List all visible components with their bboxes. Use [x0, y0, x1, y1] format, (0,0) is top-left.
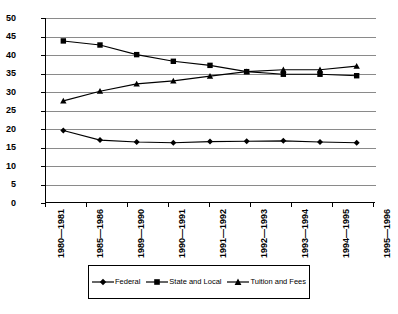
- legend-item-federal: Federal: [92, 277, 140, 287]
- legend-marker-diamond-icon: [92, 277, 114, 287]
- x-axis-tick-label: 1992—1993: [260, 209, 269, 258]
- legend: Federal State and Local Tuition and Fees: [88, 265, 310, 299]
- line-chart: 50 45 40 35 30 25 20 15 10 5 0 1980—198: [0, 0, 398, 314]
- y-axis-tick-label: 25: [0, 106, 16, 115]
- x-axis-tick-label: 1991—1992: [219, 209, 228, 258]
- data-point: [97, 137, 103, 143]
- y-axis-tick-label: 45: [0, 32, 16, 41]
- y-axis-tick-label: 10: [0, 162, 16, 171]
- x-axis-tick-label: 1989—1990: [137, 209, 146, 258]
- data-point: [317, 139, 323, 145]
- data-point: [207, 63, 212, 68]
- x-axis-tick-label: 1980—1981: [57, 209, 66, 258]
- x-axis-tick-label: 1985—1986: [96, 209, 105, 258]
- legend-marker-square-icon: [146, 277, 168, 287]
- data-point: [134, 139, 140, 145]
- data-point: [171, 59, 176, 64]
- data-point: [354, 73, 359, 78]
- y-axis-tick-label: 20: [0, 125, 16, 134]
- x-axis-tick: [127, 203, 128, 207]
- data-point: [207, 139, 213, 145]
- x-axis-tick-label: 1993—1994: [301, 209, 310, 258]
- data-point: [60, 127, 66, 133]
- legend-item-tuition-and-fees: Tuition and Fees: [227, 277, 306, 287]
- x-axis-tick-label: 1990—1991: [178, 209, 187, 258]
- series-state-and-local: [61, 38, 360, 78]
- data-point: [280, 138, 286, 144]
- legend-label: Tuition and Fees: [250, 278, 306, 286]
- y-axis-tick-label: 0: [0, 199, 16, 208]
- x-axis-tick: [332, 203, 333, 207]
- x-axis-tick: [86, 203, 87, 207]
- x-axis-tick: [291, 203, 292, 207]
- data-point: [97, 42, 102, 47]
- series-federal: [60, 127, 359, 145]
- x-axis-tick: [45, 203, 46, 207]
- series-layer: [45, 18, 375, 203]
- data-point: [354, 140, 360, 146]
- y-axis-tick-label: 40: [0, 51, 16, 60]
- x-axis-tick: [373, 203, 374, 207]
- legend-label: Federal: [115, 278, 140, 286]
- data-point: [134, 52, 139, 57]
- y-axis-tick-label: 5: [0, 180, 16, 189]
- x-axis-tick: [168, 203, 169, 207]
- x-axis-tick: [209, 203, 210, 207]
- y-axis-tick-label: 15: [0, 143, 16, 152]
- legend-label: State and Local: [169, 278, 221, 286]
- data-point: [244, 138, 250, 144]
- legend-marker-triangle-icon: [227, 277, 249, 287]
- x-axis-tick-label: 1995—1996: [383, 209, 392, 258]
- data-point: [170, 140, 176, 146]
- y-axis-tick-label: 50: [0, 14, 16, 23]
- y-axis-tick-label: 30: [0, 88, 16, 97]
- x-axis-tick-label: 1994—1995: [342, 209, 351, 258]
- series-tuition-and-fees: [60, 63, 360, 104]
- legend-item-state-and-local: State and Local: [146, 277, 221, 287]
- y-axis-tick-label: 35: [0, 69, 16, 78]
- x-axis-tick: [250, 203, 251, 207]
- data-point: [61, 38, 66, 43]
